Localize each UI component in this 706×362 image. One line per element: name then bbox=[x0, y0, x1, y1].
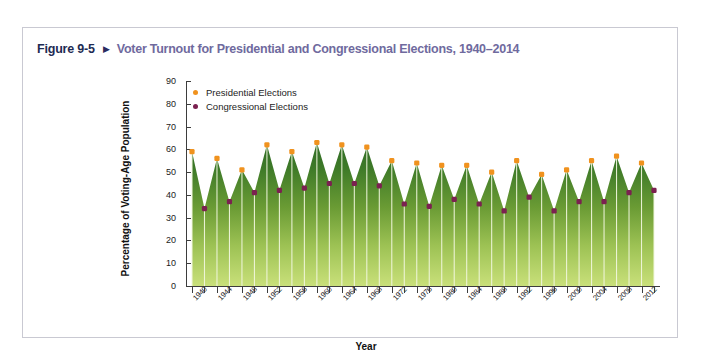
x-tick-label: 1964 bbox=[341, 285, 359, 303]
x-tick-mark bbox=[579, 287, 580, 293]
x-tick-mark bbox=[267, 287, 268, 293]
presidential-data-point bbox=[414, 160, 419, 165]
x-axis-line bbox=[186, 286, 660, 287]
congressional-data-point bbox=[477, 201, 482, 206]
presidential-data-point bbox=[189, 149, 194, 154]
presidential-data-point bbox=[214, 156, 219, 161]
x-tick-label: 1960 bbox=[316, 285, 334, 303]
x-tick-label: 1984 bbox=[466, 285, 484, 303]
x-tick-mark bbox=[379, 287, 380, 293]
x-tick-mark bbox=[567, 287, 568, 293]
presidential-legend-dot bbox=[193, 90, 198, 95]
congressional-legend-dot bbox=[193, 104, 198, 109]
x-tick-label: 1940 bbox=[191, 285, 209, 303]
congressional-data-point bbox=[626, 190, 631, 195]
x-tick-label: 2008 bbox=[616, 285, 634, 303]
y-tick-label: 0 bbox=[145, 281, 181, 291]
x-tick-mark bbox=[429, 287, 430, 293]
y-tick-label: 80 bbox=[145, 99, 181, 109]
x-tick-mark bbox=[542, 287, 543, 293]
x-tick-mark bbox=[404, 287, 405, 293]
x-tick-label: 1980 bbox=[441, 285, 459, 303]
x-tick-mark bbox=[517, 287, 518, 293]
presidential-data-point bbox=[464, 163, 469, 168]
congressional-data-point bbox=[377, 183, 382, 188]
figure-number: Figure 9-5 bbox=[37, 42, 95, 56]
x-tick-mark bbox=[417, 287, 418, 293]
presidential-data-point bbox=[289, 149, 294, 154]
x-axis-title: Year bbox=[71, 341, 661, 352]
x-tick-label: 2000 bbox=[566, 285, 584, 303]
y-tick-label: 90 bbox=[145, 76, 181, 86]
chart-legend: Presidential Elections Congressional Ele… bbox=[193, 87, 308, 115]
x-tick-mark bbox=[217, 287, 218, 293]
x-tick-mark bbox=[654, 287, 655, 293]
y-axis-tick-labels: 0102030405060708090 bbox=[145, 73, 181, 331]
congressional-data-point bbox=[327, 181, 332, 186]
x-tick-label: 1976 bbox=[416, 285, 434, 303]
y-tick-label: 30 bbox=[145, 213, 181, 223]
x-tick-mark bbox=[192, 287, 193, 293]
x-tick-label: 1972 bbox=[391, 285, 409, 303]
x-tick-mark bbox=[617, 287, 618, 293]
x-tick-mark bbox=[342, 287, 343, 293]
y-tick-label: 60 bbox=[145, 144, 181, 154]
x-tick-label: 1952 bbox=[266, 285, 284, 303]
legend-label-congressional: Congressional Elections bbox=[206, 101, 308, 112]
y-tick-label: 10 bbox=[145, 258, 181, 268]
x-tick-label: 1996 bbox=[541, 285, 559, 303]
x-tick-mark bbox=[504, 287, 505, 293]
x-tick-mark bbox=[392, 287, 393, 293]
congressional-data-point bbox=[427, 204, 432, 209]
x-tick-label: 1968 bbox=[366, 285, 384, 303]
chart-frame: Percentage of Voting-Age Population 0102… bbox=[71, 73, 661, 331]
x-tick-mark bbox=[292, 287, 293, 293]
x-tick-label: 2004 bbox=[591, 285, 609, 303]
presidential-data-point bbox=[364, 144, 369, 149]
presidential-data-point bbox=[314, 140, 319, 145]
x-tick-mark bbox=[442, 287, 443, 293]
x-tick-mark bbox=[304, 287, 305, 293]
y-tick-label: 50 bbox=[145, 167, 181, 177]
congressional-data-point bbox=[352, 181, 357, 186]
congressional-data-point bbox=[601, 199, 606, 204]
congressional-data-point bbox=[227, 199, 232, 204]
presidential-data-point bbox=[439, 163, 444, 168]
x-tick-label: 1956 bbox=[291, 285, 309, 303]
x-tick-mark bbox=[204, 287, 205, 293]
legend-item-congressional: Congressional Elections bbox=[193, 101, 308, 112]
legend-label-presidential: Presidential Elections bbox=[206, 87, 297, 98]
x-tick-mark bbox=[592, 287, 593, 293]
x-tick-mark bbox=[629, 287, 630, 293]
x-tick-label: 2012 bbox=[641, 285, 659, 303]
congressional-data-point bbox=[502, 208, 507, 213]
presidential-data-point bbox=[264, 142, 269, 147]
congressional-data-point bbox=[202, 206, 207, 211]
x-tick-label: 1944 bbox=[216, 285, 234, 303]
figure-title-row: Figure 9-5 ▶ Voter Turnout for President… bbox=[37, 42, 519, 56]
presidential-data-point bbox=[539, 172, 544, 177]
x-tick-label: 1992 bbox=[516, 285, 534, 303]
congressional-data-point bbox=[402, 201, 407, 206]
x-tick-mark bbox=[467, 287, 468, 293]
x-tick-mark bbox=[367, 287, 368, 293]
triangle-right-icon: ▶ bbox=[103, 45, 110, 54]
y-tick-label: 40 bbox=[145, 190, 181, 200]
x-tick-mark bbox=[354, 287, 355, 293]
figure-card: Figure 9-5 ▶ Voter Turnout for President… bbox=[22, 27, 678, 338]
page-title: Voter Turnout for Presidential and Congr… bbox=[117, 42, 520, 56]
x-tick-mark bbox=[529, 287, 530, 293]
congressional-data-point bbox=[576, 199, 581, 204]
x-tick-label: 1948 bbox=[241, 285, 259, 303]
congressional-data-point bbox=[252, 190, 257, 195]
x-tick-mark bbox=[454, 287, 455, 293]
presidential-data-point bbox=[639, 160, 644, 165]
legend-item-presidential: Presidential Elections bbox=[193, 87, 308, 98]
x-tick-mark bbox=[554, 287, 555, 293]
presidential-data-point bbox=[614, 154, 619, 159]
congressional-data-point bbox=[302, 185, 307, 190]
x-tick-mark bbox=[479, 287, 480, 293]
x-tick-mark bbox=[329, 287, 330, 293]
presidential-data-point bbox=[564, 167, 569, 172]
congressional-data-point bbox=[651, 188, 656, 193]
